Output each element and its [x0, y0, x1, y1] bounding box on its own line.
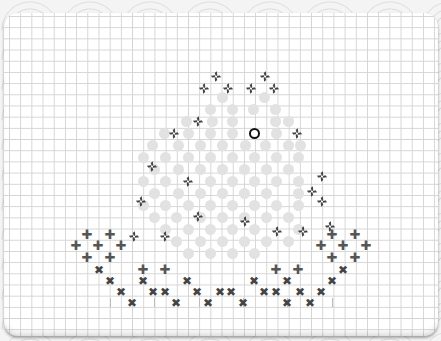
empty-cell-dot[interactable] — [180, 115, 192, 127]
empty-cell-dot[interactable] — [170, 211, 182, 223]
empty-cell-dot[interactable] — [172, 139, 184, 151]
empty-cell-dot[interactable] — [294, 139, 306, 151]
plus-piece[interactable]: ✚ — [70, 240, 82, 252]
empty-cell-dot[interactable] — [137, 175, 149, 187]
cross-piece[interactable]: ✖ — [281, 275, 293, 287]
cross-piece[interactable]: ✖ — [337, 264, 349, 276]
cross-piece[interactable]: ✖ — [315, 286, 327, 298]
empty-cell-dot[interactable] — [182, 127, 194, 139]
empty-cell-dot[interactable] — [248, 175, 260, 187]
empty-cell-dot[interactable] — [194, 187, 206, 199]
empty-cell-dot[interactable] — [270, 151, 282, 163]
empty-cell-dot[interactable] — [270, 127, 282, 139]
empty-cell-dot[interactable] — [204, 151, 216, 163]
pinwheel-piece[interactable] — [128, 230, 140, 242]
pinwheel-piece[interactable] — [182, 175, 194, 187]
empty-cell-dot[interactable] — [146, 139, 158, 151]
empty-cell-dot[interactable] — [238, 163, 250, 175]
empty-cell-dot[interactable] — [204, 247, 216, 259]
empty-cell-dot[interactable] — [148, 211, 160, 223]
empty-cell-dot[interactable] — [248, 151, 260, 163]
empty-cell-dot[interactable] — [292, 151, 304, 163]
empty-cell-dot[interactable] — [260, 211, 272, 223]
empty-cell-dot[interactable] — [226, 103, 238, 115]
empty-cell-dot[interactable] — [270, 175, 282, 187]
empty-cell-dot[interactable] — [226, 115, 238, 127]
plus-piece[interactable]: ✚ — [292, 264, 304, 276]
cross-piece[interactable]: ✖ — [225, 286, 237, 298]
cross-piece[interactable]: ✖ — [258, 286, 270, 298]
empty-cell-dot[interactable] — [226, 199, 238, 211]
plus-piece[interactable]: ✚ — [104, 252, 116, 264]
empty-cell-dot[interactable] — [259, 139, 271, 151]
pinwheel-piece[interactable] — [192, 210, 204, 222]
plus-piece[interactable]: ✚ — [81, 252, 93, 264]
empty-cell-dot[interactable] — [182, 247, 194, 259]
pinwheel-piece[interactable] — [245, 82, 257, 94]
empty-cell-dot[interactable] — [269, 103, 281, 115]
plus-piece[interactable]: ✚ — [349, 252, 361, 264]
empty-cell-dot[interactable] — [159, 151, 171, 163]
plus-piece[interactable]: ✚ — [337, 240, 349, 252]
empty-cell-dot[interactable] — [216, 163, 228, 175]
pinwheel-piece[interactable] — [291, 127, 303, 139]
empty-cell-dot[interactable] — [292, 187, 304, 199]
empty-cell-dot[interactable] — [238, 187, 250, 199]
plus-piece[interactable]: ✚ — [360, 240, 372, 252]
empty-cell-dot[interactable] — [148, 187, 160, 199]
pinwheel-piece[interactable] — [316, 170, 328, 182]
empty-cell-dot[interactable] — [260, 163, 272, 175]
empty-cell-dot[interactable] — [282, 235, 294, 247]
pinwheel-piece[interactable] — [259, 70, 271, 82]
pinwheel-piece[interactable] — [135, 195, 147, 207]
empty-cell-dot[interactable] — [247, 103, 259, 115]
empty-cell-dot[interactable] — [226, 223, 238, 235]
pinwheel-piece[interactable] — [316, 195, 328, 207]
pinwheel-piece[interactable] — [168, 127, 180, 139]
empty-cell-dot[interactable] — [204, 103, 216, 115]
selection-cursor[interactable] — [248, 127, 260, 139]
empty-cell-dot[interactable] — [282, 211, 294, 223]
empty-cell-dot[interactable] — [216, 187, 228, 199]
plus-piece[interactable]: ✚ — [159, 264, 171, 276]
cross-piece[interactable]: ✖ — [170, 297, 182, 309]
empty-cell-dot[interactable] — [159, 175, 171, 187]
empty-cell-dot[interactable] — [204, 199, 216, 211]
cross-piece[interactable]: ✖ — [326, 275, 338, 287]
pinwheel-piece[interactable] — [210, 70, 222, 82]
empty-cell-dot[interactable] — [239, 139, 251, 151]
empty-cell-dot[interactable] — [282, 163, 294, 175]
empty-cell-dot[interactable] — [206, 115, 218, 127]
plus-piece[interactable]: ✚ — [115, 240, 127, 252]
empty-cell-dot[interactable] — [204, 223, 216, 235]
pinwheel-piece[interactable] — [159, 230, 171, 242]
cross-piece[interactable]: ✖ — [237, 297, 249, 309]
game-board[interactable]: ✚✚✚✚✚✚✚✚✚✚✚✚✚✚✚✚✚✚✖✖✖✖✖✖✖✖✖✖✖✖✖✖✖✖✖✖✖✖✖✖… — [4, 13, 438, 336]
cross-piece[interactable]: ✖ — [304, 297, 316, 309]
cross-piece[interactable]: ✖ — [126, 297, 138, 309]
pinwheel-piece[interactable] — [192, 115, 204, 127]
empty-cell-dot[interactable] — [248, 247, 260, 259]
empty-cell-dot[interactable] — [194, 235, 206, 247]
empty-cell-dot[interactable] — [292, 199, 304, 211]
plus-piece[interactable]: ✚ — [315, 240, 327, 252]
pinwheel-piece[interactable] — [297, 225, 309, 237]
empty-cell-dot[interactable] — [226, 247, 238, 259]
empty-cell-dot[interactable] — [238, 235, 250, 247]
empty-cell-dot[interactable] — [216, 139, 228, 151]
empty-cell-dot[interactable] — [270, 199, 282, 211]
empty-cell-dot[interactable] — [159, 199, 171, 211]
empty-cell-dot[interactable] — [292, 175, 304, 187]
empty-cell-dot[interactable] — [248, 199, 260, 211]
cross-piece[interactable]: ✖ — [281, 297, 293, 309]
empty-cell-dot[interactable] — [282, 115, 294, 127]
cross-piece[interactable]: ✖ — [147, 286, 159, 298]
empty-cell-dot[interactable] — [170, 235, 182, 247]
plus-piece[interactable]: ✚ — [92, 240, 104, 252]
pinwheel-piece[interactable] — [268, 82, 280, 94]
pinwheel-piece[interactable] — [239, 215, 251, 227]
empty-cell-dot[interactable] — [194, 163, 206, 175]
empty-cell-dot[interactable] — [226, 151, 238, 163]
empty-cell-dot[interactable] — [282, 139, 294, 151]
empty-cell-dot[interactable] — [216, 235, 228, 247]
